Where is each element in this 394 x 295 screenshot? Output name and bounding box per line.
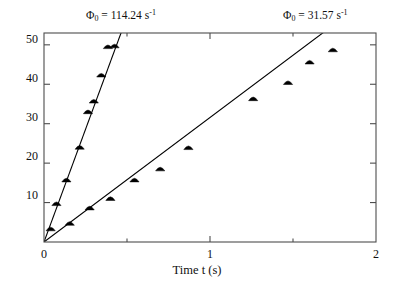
chart-figure: Φ0 = 114.24 s-1 Φ0 = 31.57 s-1 50 40 30 … bbox=[0, 0, 394, 295]
data-markers bbox=[46, 44, 337, 231]
xaxis-title: Time t (s) bbox=[0, 263, 394, 278]
xtick-label-1: 1 bbox=[200, 248, 220, 260]
ytick-label-40: 40 bbox=[12, 72, 38, 84]
xtick-label-2: 2 bbox=[366, 248, 386, 260]
plot-canvas bbox=[0, 0, 394, 295]
axis-frame bbox=[44, 33, 376, 242]
series-layer bbox=[44, 21, 338, 242]
ytick-label-20: 20 bbox=[12, 150, 38, 162]
ytick-label-10: 10 bbox=[12, 189, 38, 201]
axis-ticks bbox=[44, 33, 376, 242]
ytick-label-50: 50 bbox=[12, 33, 38, 45]
xtick-label-0: 0 bbox=[34, 248, 54, 260]
ytick-label-30: 30 bbox=[12, 111, 38, 123]
